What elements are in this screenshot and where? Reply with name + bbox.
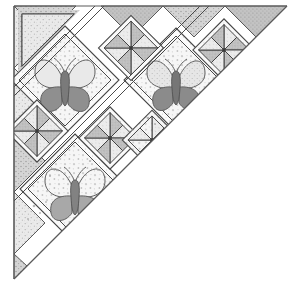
butterfly-3-lower-wing-right <box>78 196 99 221</box>
quilt-canvas <box>0 0 293 299</box>
quilt-illustration: Butterfly Triangle Quilt Layout Sawtooth… <box>0 0 293 299</box>
pinwheel-f-hub <box>100 225 105 230</box>
quilt-body <box>6 6 287 279</box>
outer-triangle-left-4 <box>14 254 27 279</box>
